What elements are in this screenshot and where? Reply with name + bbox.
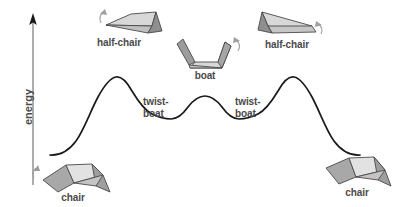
label-half-chair-right: half-chair: [252, 39, 322, 51]
energy-curve: [50, 77, 360, 155]
half-chair-left-front-facet: [106, 25, 152, 33]
chair-structure-left: [33, 164, 110, 192]
label-boat: boat: [184, 70, 226, 82]
diagram-canvas: [0, 0, 409, 207]
label-half-chair-left: half-chair: [84, 37, 154, 49]
half-chair-structure-left: [100, 9, 162, 33]
chair-structure-right: [326, 157, 391, 186]
label-twist-boat-right: twist- boat: [235, 96, 285, 120]
label-twist-boat-left-line1: twist-: [143, 96, 193, 108]
label-chair-right: chair: [334, 187, 380, 199]
label-twist-boat-right-line2: boat: [235, 108, 285, 120]
boat-right-prow: [218, 42, 231, 68]
boat-left-prow: [177, 39, 195, 65]
boat-rotation-arrowhead: [233, 37, 240, 43]
chair-left-rotation-arrowhead: [34, 165, 40, 171]
label-twist-boat-left: twist- boat: [143, 96, 193, 120]
energy-axis-label: energy: [22, 89, 34, 125]
label-twist-boat-right-line1: twist-: [235, 96, 285, 108]
boat-structure: [177, 37, 240, 68]
cyclohexane-energy-diagram: energy half-chair half-chair boat twist-…: [0, 0, 409, 207]
half-chair-left-top-plane: [106, 12, 156, 26]
half-chair-left-rotation-arrowhead: [100, 9, 107, 15]
label-twist-boat-left-line2: boat: [143, 108, 193, 120]
label-chair-left: chair: [50, 192, 96, 204]
half-chair-right-front-facet: [268, 26, 316, 33]
half-chair-structure-right: [258, 12, 322, 34]
